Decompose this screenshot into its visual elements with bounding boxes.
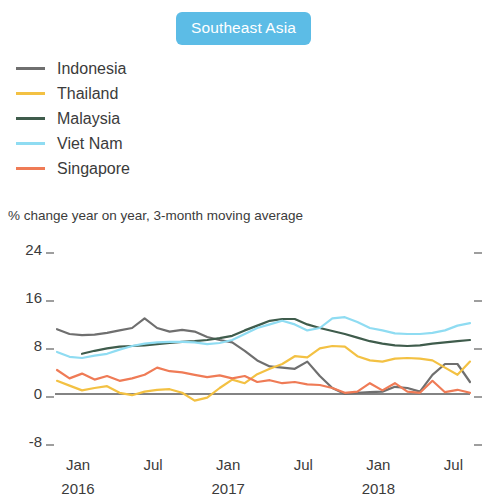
legend-item-indonesia[interactable]: Indonesia — [16, 56, 316, 81]
legend-item-label: Malaysia — [57, 111, 120, 127]
legend-swatch-icon — [16, 92, 45, 95]
chart-subtitle: % change year on year, 3-month moving av… — [8, 208, 303, 223]
legend-item-thailand[interactable]: Thailand — [16, 81, 316, 106]
x-axis-tick-month: Jul — [444, 456, 463, 473]
x-axis-tick-month: Jul — [294, 456, 313, 473]
legend-item-label: Thailand — [57, 86, 118, 102]
x-axis-tick-year: 2017 — [211, 480, 244, 497]
series-line-malaysia — [82, 319, 470, 354]
region-title-badge: Southeast Asia — [176, 12, 311, 45]
chart-plot-area: 241680-8 Jan2016JulJan2017JulJan2018Jul — [0, 232, 487, 502]
legend-item-viet-nam[interactable]: Viet Nam — [16, 131, 316, 156]
x-axis-tick-month: Jan — [366, 456, 390, 473]
legend-item-label: Viet Nam — [57, 136, 123, 152]
x-axis-tick-month: Jan — [216, 456, 240, 473]
legend-swatch-icon — [16, 167, 45, 170]
y-axis-tick-label: -8 — [29, 433, 42, 450]
line-chart-svg: 241680-8 Jan2016JulJan2017JulJan2018Jul — [0, 232, 487, 502]
legend-item-singapore[interactable]: Singapore — [16, 156, 316, 181]
y-axis-tick-label: 24 — [25, 241, 42, 258]
y-axis-tick-label: 0 — [34, 385, 42, 402]
x-axis-tick-year: 2018 — [362, 480, 395, 497]
x-axis: Jan2016JulJan2017JulJan2018Jul — [61, 456, 463, 497]
x-axis-tick-month: Jan — [66, 456, 90, 473]
x-axis-tick-year: 2016 — [61, 480, 94, 497]
legend-swatch-icon — [16, 67, 45, 70]
y-axis-tick-label: 8 — [34, 337, 42, 354]
x-axis-tick-month: Jul — [143, 456, 162, 473]
legend-item-malaysia[interactable]: Malaysia — [16, 106, 316, 131]
chart-legend: IndonesiaThailandMalaysiaViet NamSingapo… — [16, 56, 316, 181]
legend-item-label: Indonesia — [57, 61, 126, 77]
data-series-group — [57, 317, 470, 400]
legend-swatch-icon — [16, 142, 45, 145]
chart-card: Southeast Asia IndonesiaThailandMalaysia… — [0, 0, 487, 502]
legend-swatch-icon — [16, 117, 45, 120]
series-line-indonesia — [57, 318, 470, 394]
y-axis-tick-label: 16 — [25, 289, 42, 306]
chart-title-area: Southeast Asia — [0, 12, 487, 45]
legend-item-label: Singapore — [57, 161, 130, 177]
